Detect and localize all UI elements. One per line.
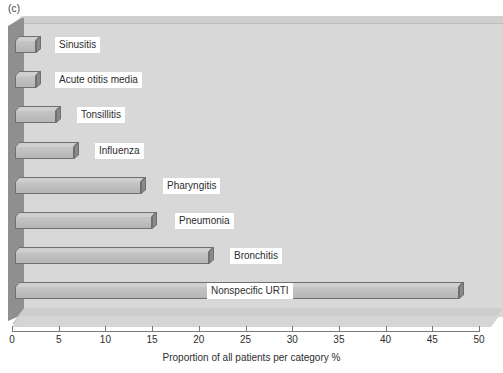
x-axis-tick-label: 25 xyxy=(240,334,251,345)
x-axis-tick xyxy=(199,326,200,332)
plot-left-wall xyxy=(8,18,24,321)
bar xyxy=(15,71,36,88)
x-axis-tick-label: 35 xyxy=(333,334,344,345)
x-axis-tick xyxy=(479,326,480,332)
bar xyxy=(15,142,74,159)
bar-category-label: Bronchitis xyxy=(230,248,282,264)
bar-face xyxy=(15,110,56,123)
bar-face xyxy=(15,251,209,264)
bar-face xyxy=(15,146,74,159)
x-axis-tick xyxy=(12,326,13,332)
bar-category-label: Acute otitis media xyxy=(55,72,142,88)
panel-letter-label: (c) xyxy=(8,3,20,14)
bar-category-label: Pharyngitis xyxy=(163,178,220,194)
x-axis-tick-label: 40 xyxy=(380,334,391,345)
x-axis-tick xyxy=(246,326,247,332)
bar-face xyxy=(15,75,36,88)
bar-top-face xyxy=(15,247,213,252)
bar-category-label: Nonspecific URTI xyxy=(207,283,293,299)
bar-top-face xyxy=(15,142,78,147)
bar xyxy=(15,106,56,123)
x-axis-tick-label: 5 xyxy=(56,334,62,345)
bar xyxy=(15,247,209,264)
x-axis-tick xyxy=(386,326,387,332)
x-axis-tick-label: 10 xyxy=(100,334,111,345)
x-axis-tick xyxy=(105,326,106,332)
bar-top-face xyxy=(15,177,145,182)
x-axis-title: Proportion of all patients per category … xyxy=(0,352,503,363)
plot-floor-front xyxy=(8,316,503,330)
bar xyxy=(15,177,141,194)
figure-panel-c: (c) SinusitisAcute otitis mediaTonsillit… xyxy=(0,0,503,373)
bar-top-face xyxy=(15,106,60,111)
plot-back-wall xyxy=(22,23,503,317)
x-axis-tick xyxy=(152,326,153,332)
bar-top-face xyxy=(15,212,156,217)
bar-category-label: Tonsillitis xyxy=(77,107,125,123)
bar-face xyxy=(15,40,36,53)
plot-area: SinusitisAcute otitis mediaTonsillitisIn… xyxy=(0,16,503,323)
bar-face xyxy=(15,181,141,194)
x-axis-tick xyxy=(432,326,433,332)
x-axis-tick-label: 15 xyxy=(147,334,158,345)
bar xyxy=(15,36,36,53)
bar-category-label: Influenza xyxy=(95,143,144,159)
x-axis-tick xyxy=(292,326,293,332)
x-axis-tick-label: 0 xyxy=(9,334,15,345)
x-axis-tick xyxy=(339,326,340,332)
bar-category-label: Pneumonia xyxy=(175,213,234,229)
x-axis-tick-label: 45 xyxy=(427,334,438,345)
bar-face xyxy=(15,216,152,229)
x-axis-tick-label: 30 xyxy=(287,334,298,345)
bar-category-label: Sinusitis xyxy=(55,37,100,53)
bar xyxy=(15,212,152,229)
x-axis-tick-label: 20 xyxy=(193,334,204,345)
x-axis-tick-label: 50 xyxy=(473,334,484,345)
x-axis-tick xyxy=(59,326,60,332)
